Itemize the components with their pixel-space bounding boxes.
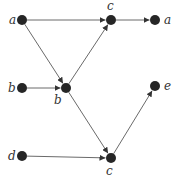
- node-d-n7: [17, 151, 27, 161]
- node-b-n5: [61, 83, 71, 93]
- node-c-n8: [106, 153, 116, 163]
- node-label: d: [8, 149, 16, 163]
- edge-n7-to-n8: [27, 156, 106, 158]
- node-b-n4: [17, 83, 27, 93]
- node-label: b: [54, 93, 62, 107]
- node-a-n3: [150, 15, 160, 25]
- node-label: a: [9, 13, 16, 27]
- node-c-n2: [106, 15, 116, 25]
- node-e-n6: [150, 81, 160, 91]
- node-label: c: [106, 164, 113, 178]
- directed-graph: acabbedc: [0, 0, 178, 180]
- nodes-group: acabbedc: [8, 0, 171, 178]
- node-label: e: [164, 79, 171, 93]
- edge-n5-to-n8: [69, 92, 108, 153]
- edge-n1-to-n5: [25, 24, 63, 83]
- node-label: a: [164, 13, 171, 27]
- edge-n5-to-n2: [69, 25, 108, 84]
- edges-group: [25, 20, 152, 158]
- node-label: b: [8, 81, 16, 95]
- edge-n8-to-n6: [114, 91, 153, 154]
- node-label: c: [107, 0, 114, 13]
- node-a-n1: [17, 15, 27, 25]
